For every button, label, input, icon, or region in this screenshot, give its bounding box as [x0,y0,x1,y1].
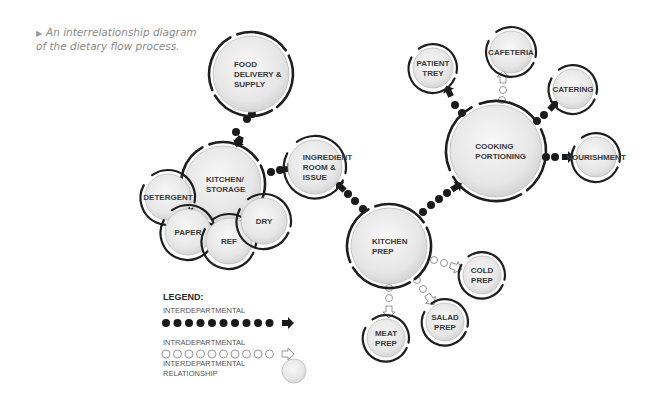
node-kitchen-prep: KITCHENPREP [347,204,431,288]
node-circle [351,208,427,284]
node-label: STORAGE [206,185,246,194]
node-label: ISSUE [303,173,328,182]
solid-dot-icon [220,319,228,327]
node-label: PORTIONING [475,152,526,161]
solid-dot-icon [232,128,240,136]
node-label: ROOM & [303,163,336,172]
node-cafeteria: CAFETERIA [486,27,536,77]
solid-dot-icon [231,319,239,327]
connection-interdepartmental-cooking-portioning-to-patient-trey [441,83,466,117]
legend-label-interdepartmental: INTERDEPARTMENTAL [163,306,245,315]
hollow-dot-icon [162,350,170,358]
node-label: COLD [471,266,494,275]
node-circle [426,303,464,341]
node-cold-prep: COLDPREP [459,252,505,299]
node-label: MEAT [375,329,397,338]
solid-dot-icon [443,189,451,197]
legend-label-relationship-line1: INTERDEPARTMENTAL [163,359,245,368]
node-circle [450,105,542,197]
solid-dot-icon [254,319,262,327]
hollow-dot-icon [220,350,228,358]
hollow-dot-icon [243,350,251,358]
node-label: PREP [372,247,394,256]
node-label: PAPER [175,228,202,237]
node-label: FOOD [234,60,257,69]
solid-dot-icon [208,319,216,327]
solid-dot-icon [162,319,170,327]
node-catering: CATERING [549,65,597,114]
node-cooking-portioning: COOKINGPORTIONING [446,101,546,201]
solid-dot-icon [419,208,427,216]
solid-dot-icon [451,101,459,109]
legend-title: LEGEND: [163,292,204,302]
node-label: DELIVERY & [234,70,282,79]
hollow-dot-icon [208,350,216,358]
hollow-dot-icon [441,260,448,267]
hollow-arrow-icon [282,348,294,360]
hollow-dot-icon [174,350,182,358]
solid-dot-icon [427,201,435,209]
connection-intradepartmental-kitchen-prep-to-salad-prep [414,277,439,309]
hollow-dot-icon [431,257,438,264]
solid-dot-icon [197,319,205,327]
solid-dot-icon [174,319,182,327]
interrelationship-diagram: FOODDELIVERY &SUPPLYKITCHEN/STORAGEDETER… [0,0,668,404]
hollow-dot-icon [185,350,193,358]
node-label: PREP [471,276,493,285]
node-label: CATERING [552,85,593,94]
solid-dot-icon [266,319,274,327]
node-patient-trey: PATIENTTREY [409,44,457,93]
node-label: DRY [256,217,273,226]
node-label: PREP [434,323,456,332]
solid-dot-icon [267,168,275,176]
hollow-dot-icon [254,350,262,358]
node-label: SUPPLY [234,80,266,89]
node-meat-prep: MEATPREP [363,315,409,362]
node-label: DETERGENT [143,193,192,202]
legend-label-relationship-line2: RELATIONSHIP [163,369,217,378]
node-circle [463,256,501,294]
node-label: CAFETERIA [488,48,534,57]
solid-dot-icon [551,153,559,161]
node-food-delivery: FOODDELIVERY &SUPPLY [209,32,293,116]
hollow-dot-icon [231,350,239,358]
hollow-dot-icon [197,350,205,358]
node-salad-prep: SALADPREP [422,299,468,346]
node-label: KITCHEN/ [206,175,245,184]
node-label: KITCHEN [372,237,408,246]
legend-label-intradepartmental: INTRADEPARTMENTAL [163,338,245,347]
solid-dot-icon [435,195,443,203]
node-label: COOKING [475,142,513,151]
node-label: PATIENT [416,59,449,68]
legend-relationship-circle-icon [282,359,306,383]
hollow-dot-icon [386,295,393,302]
node-nourishment: NOURISHMENT [566,133,626,182]
solid-dot-icon [243,319,251,327]
node-label: REF [221,237,237,246]
node-circle [367,319,405,357]
hollow-dot-icon [420,286,427,293]
solid-dot-icon [185,319,193,327]
node-circle [413,48,453,88]
legend-solid-dots-arrow-icon [162,317,294,329]
connection-intradepartmental-kitchen-prep-to-meat-prep [383,285,395,319]
hollow-dot-icon [500,87,507,94]
node-label: NOURISHMENT [566,153,626,162]
solid-dot-icon [351,197,359,205]
node-label: SALAD [431,313,459,322]
hollow-dot-icon [266,350,274,358]
solid-arrow-icon [282,317,294,329]
node-label: INGREDIENT [303,153,352,162]
legend: LEGEND: INTERDEPARTMENTAL INTRADEPARTMEN… [162,292,306,383]
node-label: TREY [422,69,444,78]
node-label: PREP [375,339,397,348]
solid-dot-icon [540,111,548,119]
solid-dot-icon [344,190,352,198]
